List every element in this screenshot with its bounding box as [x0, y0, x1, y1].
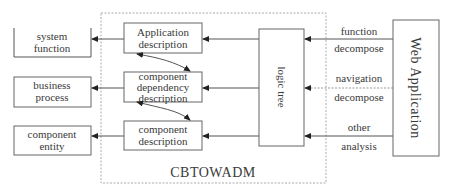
left-box-business-process: business process [14, 77, 91, 107]
left-box-label-line2: entity [39, 140, 65, 152]
logic-tree-box: logic tree [259, 29, 304, 146]
inner-box-label-line1: Application [137, 26, 189, 38]
edge-label-bottom: decompose [334, 91, 384, 103]
edge-label-top: function [341, 25, 378, 37]
edge-label-top: navigation [336, 72, 383, 84]
left-box-label-line2: function [34, 42, 71, 54]
bidirectional-arrow-app-dependency [137, 54, 190, 71]
inner-box-application-description: Application description [124, 23, 202, 53]
inner-box-label-line3: description [139, 92, 188, 104]
bidirectional-arrow-dependency-component [137, 102, 190, 120]
inner-box-component-description: component description [124, 121, 202, 150]
logic-tree-label: logic tree [276, 66, 288, 107]
left-box-label-line1: system [37, 30, 68, 42]
left-box-label-line1: business [33, 79, 70, 91]
inner-box-component-dependency-description: component dependency description [124, 70, 202, 104]
edge-label-bottom: analysis [341, 140, 376, 152]
web-application-label: Web Application [408, 37, 423, 139]
container-label: CBTOWADM [170, 165, 255, 180]
left-box-label-line1: component [28, 128, 77, 140]
cbtowadm-diagram: CBTOWADM system function business proces… [0, 0, 451, 193]
left-box-system-function: system function [14, 28, 91, 57]
inner-box-label-line2: description [139, 38, 188, 50]
left-box-component-entity: component entity [14, 126, 91, 155]
inner-box-label-line2: description [139, 135, 188, 147]
left-box-label-line2: process [36, 91, 69, 103]
inner-box-label-line1: component [139, 123, 188, 135]
edge-label-bottom: decompose [334, 42, 384, 54]
web-application-box: Web Application [393, 20, 439, 156]
edge-label-top: other [348, 121, 371, 133]
